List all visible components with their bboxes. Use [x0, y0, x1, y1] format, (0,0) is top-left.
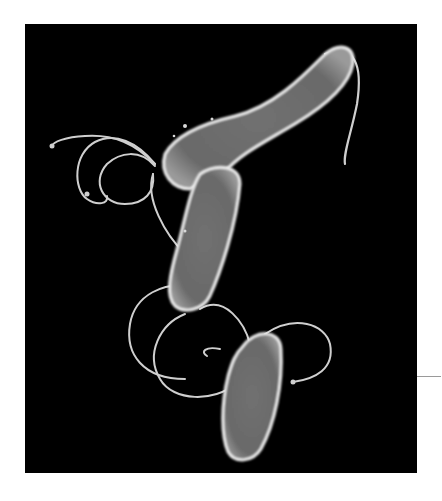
micrograph-frame — [25, 24, 417, 473]
annotation-line — [417, 376, 441, 377]
cell-lower — [223, 334, 282, 460]
cell-upper — [164, 47, 354, 189]
bacteria-illustration — [25, 24, 417, 473]
